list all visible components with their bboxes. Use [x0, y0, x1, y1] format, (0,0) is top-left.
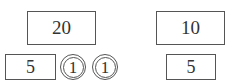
note-value: 5 — [26, 57, 35, 78]
coin-value: 1 — [101, 59, 110, 76]
note-value: 10 — [181, 17, 200, 39]
coin-value: 1 — [69, 59, 78, 76]
coin-icon: 1 — [60, 54, 86, 80]
coin-icon: 1 — [92, 54, 118, 80]
banknote-10: 10 — [156, 11, 225, 45]
banknote-5-left: 5 — [5, 54, 56, 80]
banknote-5-right: 5 — [166, 54, 216, 80]
banknote-20: 20 — [27, 11, 96, 45]
note-value: 5 — [187, 57, 196, 78]
note-value: 20 — [52, 17, 71, 39]
